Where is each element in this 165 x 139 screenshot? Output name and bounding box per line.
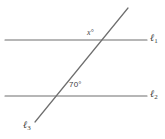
line-label-l3-subscript: 3 — [27, 124, 31, 132]
line-label-l1: ℓ1 — [150, 33, 158, 45]
angle-label-70: 70° — [69, 81, 82, 89]
line-label-l2-subscript: 2 — [154, 93, 158, 101]
line-label-l2: ℓ2 — [150, 89, 158, 101]
angle-label-x: x° — [87, 29, 94, 37]
geometry-figure: x° 70° ℓ1 ℓ2 ℓ3 — [0, 0, 165, 139]
line-label-l1-subscript: 1 — [154, 37, 158, 45]
line-label-l3: ℓ3 — [23, 120, 31, 132]
